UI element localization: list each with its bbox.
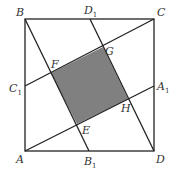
label-c1: C1 [9,82,22,97]
label-g: G [105,45,114,58]
label-a: A [15,153,24,166]
label-h: H [120,102,131,115]
label-b: B [15,6,24,19]
label-a1: A1 [156,80,169,95]
label-e: E [81,124,90,137]
shaded-square-efgh [51,47,128,124]
label-d: D [155,153,165,166]
label-f: F [50,58,59,71]
label-c: C [157,6,166,19]
label-d1: D1 [83,4,97,19]
geometry-diagram: B C D A D1 B1 C1 A1 F G H E [0,0,177,177]
label-b1: B1 [83,155,97,170]
